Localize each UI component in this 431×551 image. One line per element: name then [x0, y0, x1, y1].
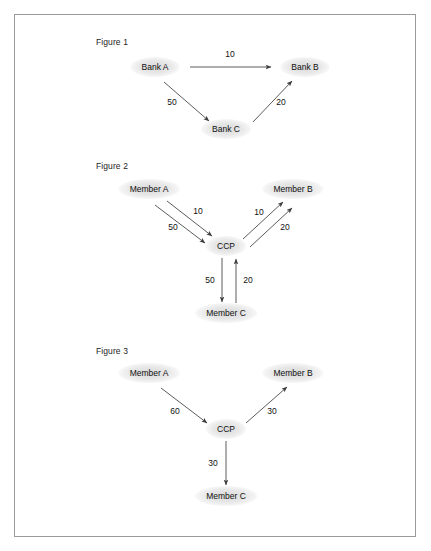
edge-label-figure-2-ccp-to-b-20: 20 — [280, 222, 289, 232]
node-figure-3-member-c: Member C — [195, 486, 257, 506]
node-figure-2-ccp: CCP — [206, 236, 246, 256]
edge-figure-3-ccp-to-b-30 — [246, 387, 287, 423]
node-figure-3-member-a: Member A — [119, 363, 180, 383]
edge-label-figure-1-a-to-c: 50 — [167, 97, 176, 107]
edge-figure-1-c-to-b — [253, 81, 292, 122]
edge-label-figure-3-ccp-to-b-30: 30 — [267, 406, 276, 416]
edge-label-figure-2-a-to-ccp-10: 10 — [193, 206, 202, 216]
node-figure-1-bank-c: Bank C — [201, 119, 251, 139]
node-figure-3-ccp: CCP — [206, 419, 246, 439]
screenshot-canvas: Figure 1105020Bank ABank BBank CFigure 2… — [0, 0, 431, 551]
edge-label-figure-1-a-to-b: 10 — [225, 49, 234, 59]
node-figure-2-member-b: Member B — [262, 179, 323, 199]
node-figure-3-member-b: Member B — [262, 363, 323, 383]
node-figure-1-bank-a: Bank A — [131, 57, 180, 77]
diagram-frame: Figure 1105020Bank ABank BBank CFigure 2… — [14, 14, 416, 537]
edge-label-figure-2-ccp-to-b-10: 10 — [254, 207, 263, 217]
node-figure-1-bank-b: Bank B — [280, 57, 329, 77]
edge-label-figure-2-ccp-to-c-50: 50 — [205, 275, 214, 285]
edge-label-figure-1-c-to-b: 20 — [276, 97, 285, 107]
figure-caption-3: Figure 3 — [96, 346, 128, 356]
edge-label-figure-3-ccp-to-c-30: 30 — [208, 458, 217, 468]
node-figure-2-member-c: Member C — [195, 303, 257, 323]
edge-label-figure-2-a-to-ccp-50: 50 — [168, 222, 177, 232]
edge-label-figure-2-c-to-ccp-20: 20 — [243, 275, 252, 285]
figure-caption-2: Figure 2 — [96, 161, 128, 171]
page-header-faint-text — [0, 0, 431, 13]
edge-figure-3-a-to-ccp-60 — [161, 388, 207, 423]
edge-label-figure-3-a-to-ccp-60: 60 — [170, 406, 179, 416]
node-figure-2-member-a: Member A — [119, 179, 180, 199]
figure-caption-1: Figure 1 — [96, 37, 128, 47]
